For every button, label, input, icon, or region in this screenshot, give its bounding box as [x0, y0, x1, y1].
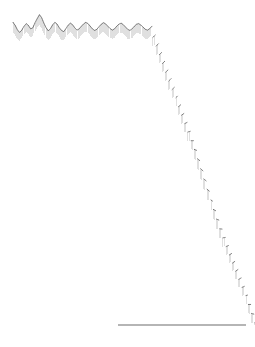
surface-skirt-hatching	[13, 15, 255, 325]
wireframe-surface-plot	[0, 0, 255, 347]
figure-canvas	[0, 0, 255, 347]
surface-row-traces	[13, 15, 255, 325]
